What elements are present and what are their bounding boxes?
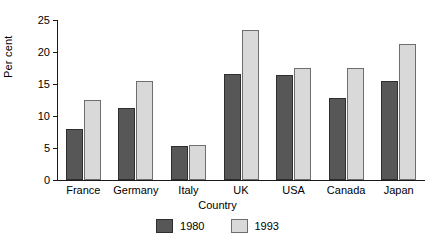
x-tick-label-japan: Japan	[372, 185, 425, 196]
legend-swatch-1993	[231, 219, 248, 233]
bar-usa-1980	[276, 75, 293, 180]
y-axis-line	[57, 20, 58, 181]
legend-label-1993: 1993	[255, 221, 279, 232]
bar-chart: Per cent 0510152025 FranceGermanyItalyUK…	[0, 0, 435, 248]
legend-label-1980: 1980	[180, 221, 204, 232]
bar-group	[222, 20, 261, 181]
y-tick-label: 5	[44, 143, 50, 154]
y-tick-label: 20	[38, 47, 50, 58]
bar-italy-1980	[171, 146, 188, 180]
x-tick-label-usa: USA	[267, 185, 320, 196]
y-tick-mark	[53, 148, 57, 149]
bar-group	[64, 20, 103, 181]
legend-swatch-1980	[156, 219, 173, 233]
bar-italy-1993	[189, 145, 206, 180]
bar-group	[379, 20, 418, 181]
bar-uk-1993	[242, 30, 259, 180]
y-tick-mark	[53, 52, 57, 53]
legend-entry-1993[interactable]: 1993	[231, 219, 279, 233]
y-tick-label: 0	[44, 175, 50, 186]
bar-canada-1993	[347, 68, 364, 180]
bar-group	[116, 20, 155, 181]
legend-entry-1980[interactable]: 1980	[156, 219, 204, 233]
bar-japan-1980	[381, 81, 398, 180]
plot-area: 0510152025 FranceGermanyItalyUKUSACanada…	[57, 20, 425, 181]
bar-germany-1980	[118, 108, 135, 180]
bar-group	[274, 20, 313, 181]
y-tick-label: 10	[38, 111, 50, 122]
y-tick-label: 15	[38, 79, 50, 90]
chart-legend: 19801993	[0, 219, 435, 233]
bar-canada-1980	[329, 98, 346, 180]
bar-group	[327, 20, 366, 181]
x-tick-label-france: France	[57, 185, 110, 196]
bar-japan-1993	[399, 44, 416, 180]
y-tick-label: 25	[38, 15, 50, 26]
bar-uk-1980	[224, 74, 241, 180]
x-axis-title: Country	[0, 199, 435, 211]
bar-france-1980	[66, 129, 83, 180]
x-tick-label-italy: Italy	[162, 185, 215, 196]
x-tick-label-canada: Canada	[320, 185, 373, 196]
x-tick-label-germany: Germany	[110, 185, 163, 196]
y-tick-mark	[53, 20, 57, 21]
y-tick-mark	[53, 180, 57, 181]
y-tick-mark	[53, 116, 57, 117]
bar-germany-1993	[136, 81, 153, 180]
x-tick-label-uk: UK	[215, 185, 268, 196]
y-tick-mark	[53, 84, 57, 85]
bar-france-1993	[84, 100, 101, 180]
bar-group	[169, 20, 208, 181]
bar-usa-1993	[294, 68, 311, 180]
y-axis-title: Per cent	[2, 0, 18, 78]
